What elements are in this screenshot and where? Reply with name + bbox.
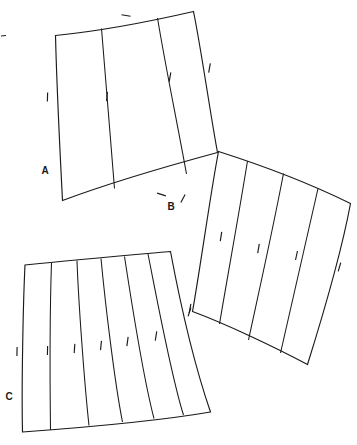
tick-mark-icon <box>107 92 108 101</box>
pattern-diagram-canvas: A B C <box>0 0 357 445</box>
stray-marks-group <box>1 36 6 37</box>
margin-stray-mark <box>1 36 6 37</box>
panel-b-label: B <box>167 201 174 212</box>
tick-mark-icon <box>74 344 75 353</box>
figure-root: A B C <box>0 0 357 445</box>
panel-a-label: A <box>41 165 48 176</box>
panel-c-label: C <box>5 391 12 402</box>
